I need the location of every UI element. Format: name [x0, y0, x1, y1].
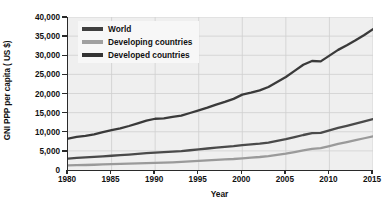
- chart-legend: WorldDeveloping countriesDeveloped count…: [78, 21, 199, 63]
- legend-item: Developing countries: [82, 37, 192, 47]
- y-axis-tick-mark: [62, 112, 67, 113]
- y-axis-tick-label: 25,000: [35, 70, 60, 79]
- x-axis-tick-mark: [284, 170, 285, 174]
- y-axis-tick-mark: [62, 55, 67, 56]
- y-axis-tick-label: 5,000: [40, 146, 61, 155]
- chart-figure: GNI PPP per capita ( US $) 05,00010,0001…: [0, 0, 382, 207]
- legend-label: Developing countries: [108, 38, 192, 46]
- y-axis-tick-mark: [62, 16, 67, 17]
- x-axis-tick-mark: [197, 170, 198, 174]
- x-axis-tick-mark: [371, 170, 372, 174]
- x-axis-tick-label: 2015: [363, 175, 381, 184]
- y-axis-tick-mark: [62, 150, 67, 151]
- x-axis-tick-label: 1990: [145, 175, 163, 184]
- x-axis-tick-label: 2000: [232, 175, 250, 184]
- y-axis-tick-mark: [62, 35, 67, 36]
- y-axis-tick-mark: [62, 74, 67, 75]
- y-axis-title-text: GNI PPP per capita ( US $): [4, 40, 13, 140]
- series-line: [68, 119, 373, 158]
- legend-swatch-icon: [82, 40, 103, 43]
- legend-swatch-icon: [82, 53, 103, 56]
- x-axis-tick-mark: [328, 170, 329, 174]
- y-axis-tick-label: 15,000: [35, 108, 60, 117]
- y-axis-tick-labels: 05,00010,00015,00020,00025,00030,00035,0…: [16, 0, 64, 207]
- x-axis-tick-mark: [153, 170, 154, 174]
- x-axis-tick-mark: [241, 170, 242, 174]
- y-axis-tick-label: 35,000: [35, 32, 60, 41]
- y-axis-tick-mark: [62, 93, 67, 94]
- legend-label: World: [108, 25, 131, 33]
- x-axis-tick-mark: [110, 170, 111, 174]
- x-axis-tick-mark: [66, 170, 67, 174]
- y-axis-tick-label: 10,000: [35, 127, 60, 136]
- x-axis-tick-label: 1980: [58, 175, 76, 184]
- legend-swatch-icon: [82, 27, 103, 30]
- y-axis-tick-label: 30,000: [35, 51, 60, 60]
- x-axis-tick-label: 2005: [276, 175, 294, 184]
- x-axis-title: Year: [67, 189, 372, 199]
- legend-label: Developed countries: [108, 51, 190, 59]
- y-axis-title: GNI PPP per capita ( US $): [0, 0, 16, 180]
- y-axis-tick-label: 20,000: [35, 89, 60, 98]
- x-axis-tick-label: 1985: [101, 175, 119, 184]
- legend-item: World: [82, 24, 192, 34]
- legend-item: Developed countries: [82, 50, 192, 60]
- y-axis-tick-label: 40,000: [35, 13, 60, 22]
- y-axis-tick-mark: [62, 131, 67, 132]
- x-axis-tick-label: 1995: [189, 175, 207, 184]
- x-axis-tick-label: 2010: [319, 175, 337, 184]
- y-axis-tick-label: 0: [55, 166, 60, 175]
